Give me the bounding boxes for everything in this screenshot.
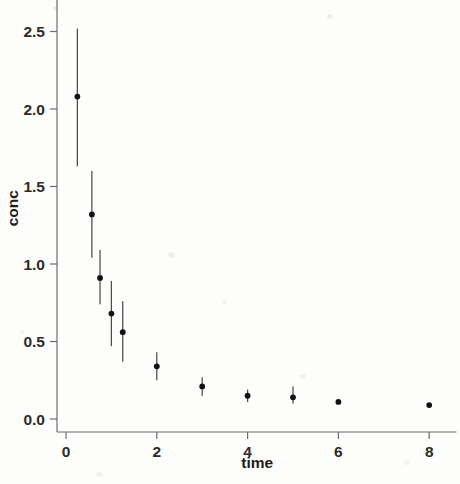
data-series	[74, 28, 432, 408]
data-point	[120, 329, 126, 335]
data-point	[336, 399, 342, 405]
y-tick-label: 2.0	[23, 101, 45, 118]
x-tick-label: 2	[152, 443, 161, 460]
data-point	[245, 393, 251, 399]
data-point	[426, 402, 432, 408]
x-tick-label: 6	[334, 443, 343, 460]
axes: 0.00.51.01.52.02.502468	[23, 0, 456, 460]
y-tick-label: 0.0	[23, 411, 45, 428]
data-point	[199, 384, 205, 390]
axis-titles: timeconc	[4, 190, 274, 471]
data-point	[97, 275, 103, 281]
data-point	[89, 212, 95, 218]
y-tick-label: 2.5	[23, 23, 45, 40]
data-point	[290, 394, 296, 400]
concentration-time-scatter-plot: 0.00.51.01.52.02.502468 timeconc	[0, 0, 460, 484]
data-point	[154, 363, 160, 369]
chart-canvas: 0.00.51.01.52.02.502468 timeconc	[0, 0, 460, 484]
x-axis-title: time	[241, 454, 273, 471]
y-axis-title: conc	[4, 190, 21, 227]
data-point	[74, 94, 80, 100]
y-tick-label: 0.5	[23, 333, 45, 350]
x-tick-label: 0	[62, 443, 71, 460]
x-tick-label: 8	[425, 443, 434, 460]
y-tick-label: 1.5	[23, 178, 45, 195]
y-tick-label: 1.0	[23, 256, 45, 273]
data-point	[109, 311, 115, 317]
